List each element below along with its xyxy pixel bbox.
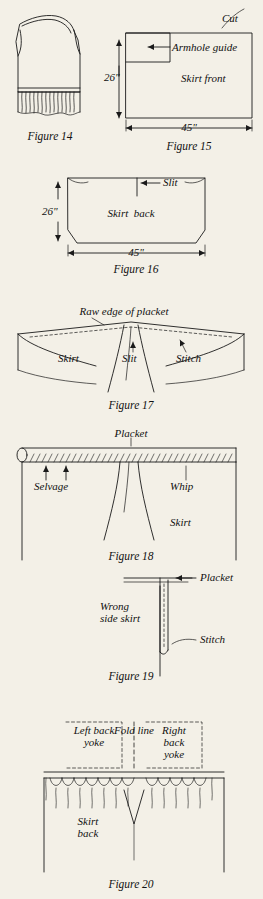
figure-16-label-slit: Slit: [163, 176, 178, 188]
figure-20-caption: Figure 20: [108, 878, 153, 890]
figure-16-caption: Figure 16: [113, 263, 158, 275]
figure-16-dim-width: 45": [128, 246, 144, 258]
figure-14-caption: Figure 14: [27, 130, 72, 142]
figure-19-label-placket: Placket: [200, 571, 233, 583]
figure-17-label-raw-edge-of-placket: Raw edge of placket: [80, 305, 169, 317]
figure-18-label-placket: Placket: [115, 427, 148, 439]
figure-15-caption: Figure 15: [166, 140, 211, 152]
figure-15-label-cut: Cut: [222, 12, 238, 24]
figure-18-label-selvage: Selvage: [34, 480, 68, 492]
figure-15-label-armhole-guide: Armhole guide: [172, 41, 237, 53]
figure-15-label-skirt-front: Skirt front: [181, 72, 226, 84]
figure-16-label-skirt-back: Skirt back: [107, 207, 154, 219]
figure-17-caption: Figure 17: [108, 399, 153, 411]
figure-sheet: Figure 14 Cut Armhole guide Skirt front …: [0, 0, 263, 899]
figure-19-label-stitch: Stitch: [200, 633, 225, 645]
figure-15-drawing: [116, 9, 252, 131]
figure-20-label-skirt-back: Skirt back: [78, 815, 99, 839]
figure-17-label-slit: Slit: [122, 352, 137, 364]
figure-18-caption: Figure 18: [108, 550, 153, 562]
figure-18-label-skirt: Skirt: [170, 516, 191, 528]
figure-19-caption: Figure 19: [108, 670, 153, 682]
figure-19-drawing: [124, 575, 196, 676]
figure-19-label-wrong-side-skirt: Wrong side skirt: [100, 600, 140, 624]
figure-17-label-stitch: Stitch: [176, 352, 201, 364]
figure-16-dim-height: 26": [42, 205, 58, 217]
figure-20-label-fold-line: Fold line: [114, 724, 154, 736]
figure-20-drawing: [44, 722, 224, 872]
figure-14-drawing: [16, 15, 80, 115]
figure-20-label-right-back-yoke: Right back yoke: [162, 724, 186, 760]
figure-20-label-left-back-yoke: Left back yoke: [74, 724, 115, 748]
figure-18-drawing: [17, 438, 236, 560]
figure-17-label-skirt: Skirt: [58, 352, 79, 364]
figure-15-dim-height: 26": [104, 71, 120, 83]
figure-18-label-whip: Whip: [170, 480, 193, 492]
figure-15-dim-width: 45": [181, 121, 197, 133]
